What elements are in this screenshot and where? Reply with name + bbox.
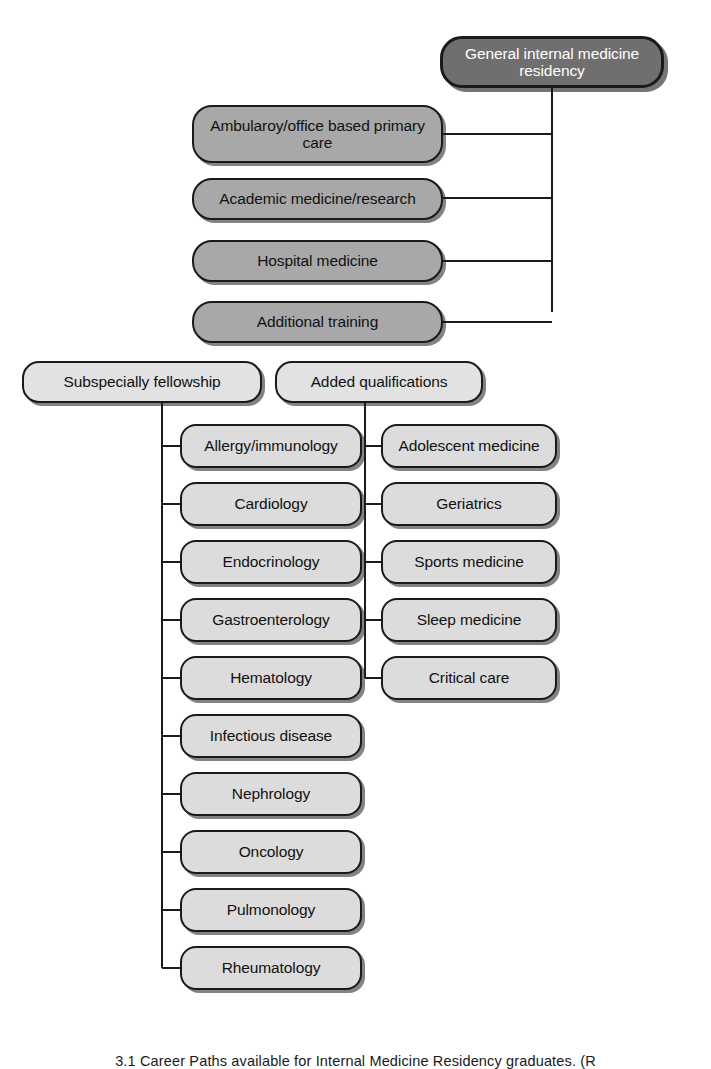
node-label: Critical care (422, 669, 517, 686)
node-label: Adolescent medicine (391, 437, 546, 454)
node-label: Geriatrics (429, 495, 508, 512)
node-nephrology[interactable]: Nephrology (180, 772, 362, 816)
node-endocrinology[interactable]: Endocrinology (180, 540, 362, 584)
node-label: Subspecially fellowship (56, 373, 227, 390)
node-label: Nephrology (225, 785, 317, 802)
node-gastroenterology[interactable]: Gastroenterology (180, 598, 362, 642)
node-label: Gastroenterology (205, 611, 336, 628)
node-label: Oncology (232, 843, 311, 860)
node-label: Sports medicine (407, 553, 531, 570)
node-hematology[interactable]: Hematology (180, 656, 362, 700)
node-sports-medicine[interactable]: Sports medicine (381, 540, 557, 584)
node-adolescent-medicine[interactable]: Adolescent medicine (381, 424, 557, 468)
node-sleep-medicine[interactable]: Sleep medicine (381, 598, 557, 642)
node-label: Ambularoy/office based primary care (194, 117, 441, 152)
node-label: Additional training (250, 313, 385, 330)
node-label: Hospital medicine (250, 252, 385, 269)
node-label: Allergy/immunology (197, 437, 344, 454)
node-label: Infectious disease (203, 727, 339, 744)
node-label: Pulmonology (220, 901, 323, 918)
node-allergy-immunology[interactable]: Allergy/immunology (180, 424, 362, 468)
node-cardiology[interactable]: Cardiology (180, 482, 362, 526)
node-oncology[interactable]: Oncology (180, 830, 362, 874)
node-label: Rheumatology (215, 959, 328, 976)
node-ambulatory-primary-care[interactable]: Ambularoy/office based primary care (192, 105, 443, 163)
node-label: Academic medicine/research (212, 190, 422, 207)
node-subspecialty-fellowship[interactable]: Subspecially fellowship (22, 361, 262, 403)
node-rheumatology[interactable]: Rheumatology (180, 946, 362, 990)
node-label: Endocrinology (216, 553, 327, 570)
node-general-internal-medicine-residency[interactable]: General internal medicine residency (440, 36, 664, 88)
node-hospital-medicine[interactable]: Hospital medicine (192, 240, 443, 282)
node-infectious-disease[interactable]: Infectious disease (180, 714, 362, 758)
node-label: Added qualifications (304, 373, 455, 390)
career-paths-diagram: General internal medicine residency Ambu… (0, 0, 711, 1069)
node-academic-medicine-research[interactable]: Academic medicine/research (192, 178, 443, 220)
node-label: Cardiology (227, 495, 314, 512)
node-pulmonology[interactable]: Pulmonology (180, 888, 362, 932)
node-label: General internal medicine residency (443, 45, 661, 80)
node-additional-training[interactable]: Additional training (192, 301, 443, 343)
node-added-qualifications[interactable]: Added qualifications (275, 361, 483, 403)
node-label: Sleep medicine (410, 611, 529, 628)
node-critical-care[interactable]: Critical care (381, 656, 557, 700)
node-geriatrics[interactable]: Geriatrics (381, 482, 557, 526)
node-label: Hematology (223, 669, 319, 686)
figure-caption: 3.1 Career Paths available for Internal … (0, 1053, 711, 1069)
